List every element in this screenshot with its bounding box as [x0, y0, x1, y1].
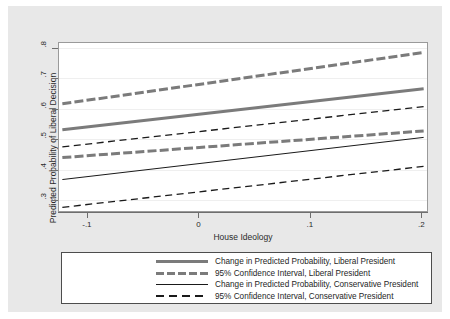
x-tick-label: .1	[298, 220, 322, 229]
y-axis-title-holder: Predicted Probability of Liberal Decisio…	[30, 42, 42, 212]
legend-item-label: 95% Confidence Interval, Liberal Preside…	[215, 269, 370, 278]
series-line	[62, 137, 423, 179]
y-tick-label: .7	[36, 70, 50, 79]
x-tick	[87, 212, 88, 218]
y-tick-label: .4	[36, 162, 50, 171]
legend-key-icon	[156, 256, 208, 267]
legend-item-label: 95% Confidence Interval, Conservative Pr…	[215, 292, 393, 301]
series-line	[62, 107, 423, 147]
legend-key-icon	[156, 291, 208, 302]
legend-item-label: Change in Predicted Probability, Conserv…	[215, 280, 418, 289]
legend-item-3: Change in Predicted Probability, Conserv…	[62, 279, 431, 290]
x-tick-label: 0	[186, 220, 210, 229]
y-tick-label: .6	[36, 101, 50, 110]
x-tick-label: .2	[409, 220, 433, 229]
legend: Change in Predicted Probability, Liberal…	[61, 252, 432, 304]
series-lines	[59, 43, 427, 211]
legend-rows: Change in Predicted Probability, Liberal…	[62, 256, 431, 302]
y-tick-label: .8	[36, 40, 50, 49]
legend-key-icon	[156, 268, 208, 279]
x-axis-line	[58, 212, 428, 213]
y-tick-label: .5	[36, 131, 50, 140]
screenshot-root: Predicted Probability of Liberal Decisio…	[0, 0, 450, 319]
x-tick-label: -.1	[75, 220, 99, 229]
legend-item-1: Change in Predicted Probability, Liberal…	[62, 256, 431, 267]
x-tick	[421, 212, 422, 218]
legend-item-label: Change in Predicted Probability, Liberal…	[215, 257, 395, 266]
plot-inner	[59, 43, 427, 211]
x-tick	[198, 212, 199, 218]
series-line	[62, 131, 423, 158]
series-line	[62, 166, 423, 207]
plot-area	[58, 42, 428, 212]
graph-region: Predicted Probability of Liberal Decisio…	[8, 6, 442, 312]
x-axis-title: House Ideology	[58, 232, 428, 242]
legend-item-2: 95% Confidence Interval, Liberal Preside…	[62, 268, 431, 279]
y-tick-label: .3	[36, 192, 50, 201]
legend-key-icon	[156, 279, 208, 290]
x-tick	[310, 212, 311, 218]
legend-item-4: 95% Confidence Interval, Conservative Pr…	[62, 291, 431, 302]
y-axis-title: Predicted Probability of Liberal Decisio…	[48, 63, 58, 233]
